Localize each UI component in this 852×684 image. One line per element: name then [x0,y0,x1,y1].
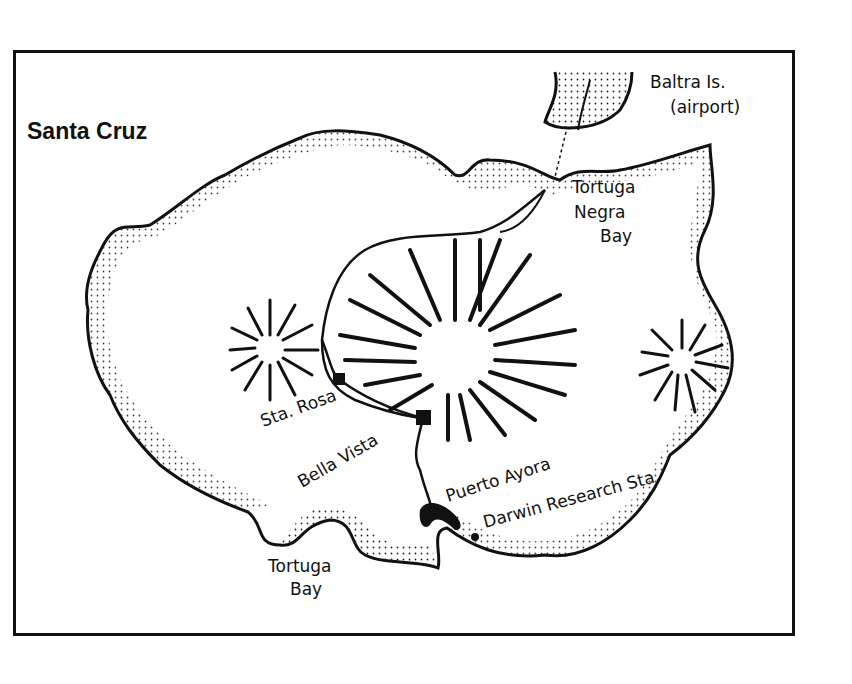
darwin-station-marker [471,533,479,541]
label-tortuga-negra-1: Tortuga [571,177,636,197]
label-baltra: Baltra Is. [650,72,726,92]
label-tortuga-negra-3: Bay [600,226,632,246]
map-canvas: Baltra Is. (airport) Tortuga Negra Bay S… [0,0,852,684]
label-tortuga-bay-2: Bay [290,579,322,599]
bella-vista-marker [416,410,431,425]
baltra-island [545,72,632,130]
label-tortuga-negra-2: Negra [574,202,625,222]
label-airport: (airport) [670,97,740,117]
label-tortuga-bay-1: Tortuga [267,556,332,576]
sta-rosa-marker [333,373,345,385]
